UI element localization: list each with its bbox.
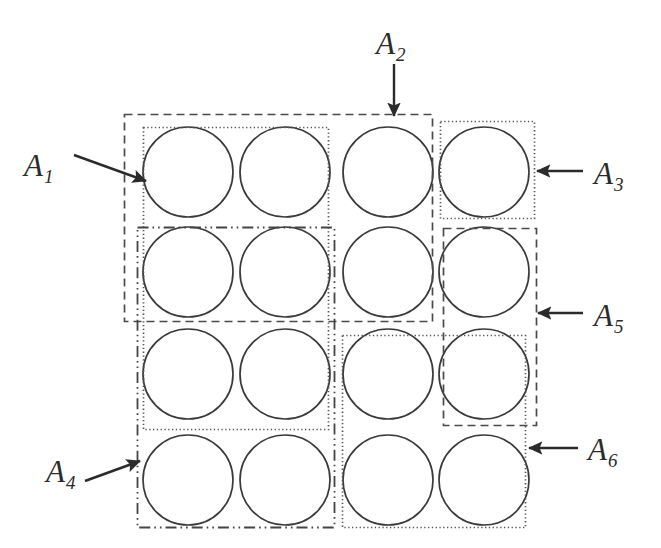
region-label-A3: A3	[594, 158, 622, 189]
region-label-A1: A1	[24, 150, 52, 181]
grid-circle	[240, 435, 330, 525]
grid-circle	[343, 435, 433, 525]
grid-circle	[439, 127, 529, 217]
region-label-A5: A5	[594, 300, 622, 331]
region-label-A6-base: A	[588, 432, 607, 467]
figure-graphics	[0, 0, 661, 548]
region-label-A6-sub: 6	[608, 450, 618, 471]
grid-circle	[143, 329, 233, 419]
region-label-A5-base: A	[594, 298, 613, 333]
region-label-A3-base: A	[594, 156, 613, 191]
region-label-A5-sub: 5	[614, 316, 624, 337]
grid-circle	[439, 227, 529, 317]
region-label-A2-sub: 2	[396, 44, 406, 65]
region-box-A2	[125, 115, 433, 322]
grid-circle	[439, 329, 529, 419]
region-label-A6: A6	[588, 434, 616, 465]
region-label-A2: A2	[376, 28, 404, 59]
grid-circle	[240, 127, 330, 217]
region-box-A1	[144, 128, 329, 430]
grid-circle	[143, 227, 233, 317]
grid-circle	[343, 329, 433, 419]
grid-circle	[240, 329, 330, 419]
arrow-A1	[74, 155, 146, 181]
region-label-A4-base: A	[46, 454, 65, 489]
figure-canvas: A1 A2 A3 A4 A5 A6	[0, 0, 661, 548]
grid-circle	[143, 127, 233, 217]
region-box-A3	[441, 122, 535, 219]
region-label-A1-sub: 1	[44, 166, 54, 187]
grid-circle	[439, 435, 529, 525]
grid-circle	[240, 227, 330, 317]
arrow-A4	[85, 461, 140, 481]
circle-grid	[143, 127, 529, 525]
region-label-A4-sub: 4	[66, 472, 76, 493]
grid-circle	[343, 127, 433, 217]
region-box-A4	[138, 228, 335, 528]
region-label-A3-sub: 3	[614, 174, 624, 195]
region-label-A1-base: A	[24, 148, 43, 183]
grid-circle	[143, 435, 233, 525]
grid-circle	[343, 227, 433, 317]
region-label-A4: A4	[46, 456, 74, 487]
region-box-A6	[343, 336, 526, 528]
region-label-A2-base: A	[376, 26, 395, 61]
